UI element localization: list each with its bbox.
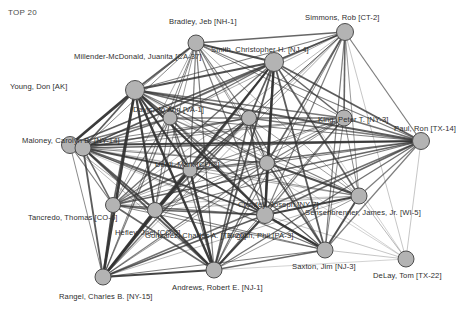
graph-node[interactable] <box>95 269 111 285</box>
graph-node-label: Sensenbrenner, James, Jr. [WI-5] <box>305 208 421 217</box>
graph-node-label: Maloney, Carolyn B. [NY-14] <box>22 136 120 145</box>
graph-node-label: Paul, Ron [TX-14] <box>394 124 456 133</box>
network-graph-canvas: TOP 20 Young, Don [AK]Millender-McDonald… <box>0 0 458 309</box>
graph-edge <box>406 141 421 259</box>
graph-node[interactable] <box>106 198 121 213</box>
graph-node-label: Davis, Jo Ann [VA-1] <box>133 105 204 114</box>
graph-node[interactable] <box>206 262 222 278</box>
graph-node-label: DeLay, Tom [TX-22] <box>373 271 442 280</box>
graph-node-label: English, Phil [PA-3] <box>227 231 293 240</box>
graph-node[interactable] <box>148 203 163 218</box>
graph-node-label: Crowley, Joseph [NY-7] <box>238 200 319 209</box>
page-title: TOP 20 <box>8 8 37 17</box>
edge-layer <box>70 32 421 277</box>
graph-edge <box>135 32 345 90</box>
graph-edge <box>359 196 406 259</box>
graph-node[interactable] <box>265 53 284 72</box>
graph-node[interactable] <box>126 81 145 100</box>
graph-node[interactable] <box>337 24 354 41</box>
graph-node-label: Young, Don [AK] <box>10 82 67 91</box>
graph-edge <box>344 32 345 118</box>
graph-node-label: Simmons, Rob [CT-2] <box>305 13 379 22</box>
graph-node[interactable] <box>188 35 204 51</box>
graph-node-label: Udall, Mark [CO-2] <box>155 160 220 169</box>
graph-node-label: Rangel, Charles B. [NY-15] <box>59 292 153 301</box>
graph-node[interactable] <box>413 133 430 150</box>
graph-node[interactable] <box>260 156 275 171</box>
graph-node-label: Millender-McDonald, Juanita [CA-37] <box>74 52 202 61</box>
graph-node-label: King, Peter T. [NY-3] <box>318 115 388 124</box>
graph-node-label: Saxton, Jim [NJ-3] <box>292 262 356 271</box>
graph-node[interactable] <box>398 251 414 267</box>
graph-node-label: Smith, Christopher H. [NJ-4] <box>211 45 309 54</box>
graph-node[interactable] <box>351 188 367 204</box>
graph-node[interactable] <box>242 111 257 126</box>
graph-node[interactable] <box>317 242 333 258</box>
graph-node-label: Tancredo, Thomas [CO-6] <box>28 213 118 222</box>
graph-edge <box>265 62 274 215</box>
graph-node-label: Bradley, Jeb [NH-1] <box>169 17 237 26</box>
graph-node-label: Andrews, Robert E. [NJ-1] <box>172 283 263 292</box>
graph-node[interactable] <box>257 207 274 224</box>
